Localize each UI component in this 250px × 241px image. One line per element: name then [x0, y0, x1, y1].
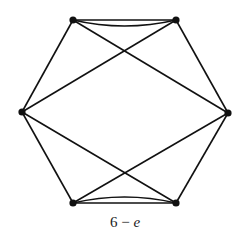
caption-operator: − [121, 214, 129, 230]
edge-topleft-right [73, 20, 228, 113]
edge-top-curved [73, 20, 176, 26]
graph-diagram [0, 0, 250, 241]
edge-left-bottomleft [22, 112, 73, 203]
edge-right-bottomright [176, 113, 228, 203]
caption-variable: e [133, 214, 140, 230]
nodes [18, 16, 231, 206]
caption-number: 6 [110, 214, 118, 230]
edges [22, 20, 228, 203]
node-top-right [172, 16, 179, 23]
node-bottom-right [172, 199, 179, 206]
edge-bottom-curved [73, 197, 176, 203]
node-left [18, 108, 25, 115]
node-bottom-left [69, 199, 76, 206]
node-right [224, 109, 231, 116]
edge-topright-right [176, 20, 228, 113]
edge-right-bottomleft [73, 113, 228, 203]
edge-topleft-left [22, 20, 73, 112]
edge-topright-left [22, 20, 176, 112]
node-top-left [69, 16, 76, 23]
figure-caption: 6 − e [0, 214, 250, 231]
